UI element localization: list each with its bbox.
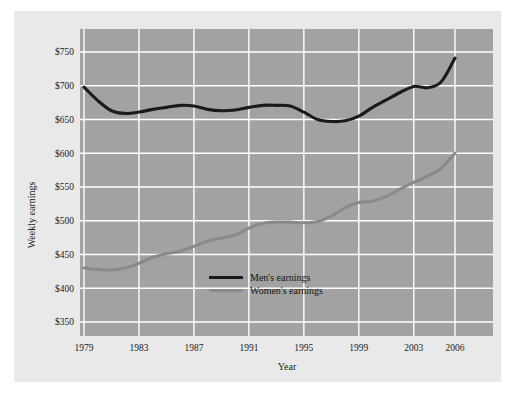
y-tick-label: $400 (55, 284, 74, 294)
y-tick-label: $500 (55, 216, 74, 226)
x-tick-label: 1999 (349, 343, 368, 353)
y-tick-label: $550 (55, 182, 74, 192)
x-tick-label: 1995 (294, 343, 313, 353)
y-axis-title: Weekly earnings (26, 182, 37, 249)
y-tick-label: $450 (55, 250, 74, 260)
y-tick-label: $650 (55, 115, 74, 125)
y-tick-label: $750 (55, 47, 74, 57)
x-tick-label: 1983 (129, 343, 148, 353)
legend-label-womens-earnings: Women's earnings (250, 285, 323, 296)
x-axis-tick-labels: 19791983198719911995199920032006 (75, 343, 465, 353)
x-tick-label: 1991 (239, 343, 258, 353)
x-tick-label: 1979 (75, 343, 94, 353)
x-tick-label: 2006 (446, 343, 465, 353)
chart-figure: $350$400$450$500$550$600$650$700$750 197… (0, 0, 515, 393)
x-tick-label: 2003 (404, 343, 423, 353)
y-tick-label: $700 (55, 81, 74, 91)
y-tick-label: $350 (55, 317, 74, 327)
legend-label-mens-earnings: Men's earnings (250, 272, 311, 283)
x-tick-label: 1987 (184, 343, 203, 353)
y-tick-label: $600 (55, 149, 74, 159)
line-chart: $350$400$450$500$550$600$650$700$750 197… (0, 0, 515, 393)
x-axis-title: Year (278, 361, 297, 372)
y-axis-tick-labels: $350$400$450$500$550$600$650$700$750 (55, 47, 74, 327)
